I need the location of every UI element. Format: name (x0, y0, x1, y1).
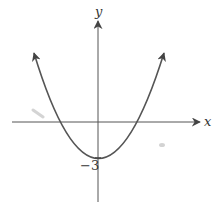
y-axis-label: y (94, 4, 103, 19)
smudge-mark (33, 110, 43, 117)
parabola-graph: y x −3 (0, 0, 218, 204)
parabola-curve (34, 53, 164, 159)
y-intercept-label: −3 (80, 158, 99, 173)
x-axis-label: x (204, 114, 212, 129)
smudge-mark (159, 143, 165, 147)
